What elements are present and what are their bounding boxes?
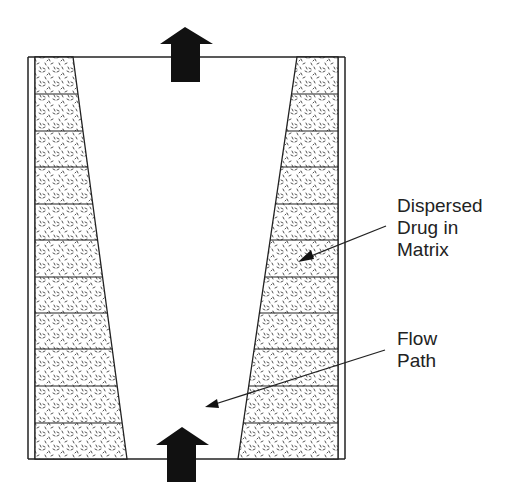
flow-path-label: Flow Path: [397, 328, 437, 372]
matrix-label-line2: Drug in: [397, 217, 483, 239]
flow-label-line1: Flow: [397, 328, 437, 350]
left-drug-matrix: [35, 57, 127, 459]
matrix-label-line3: Matrix: [397, 239, 483, 261]
matrix-label-line1: Dispersed: [397, 195, 483, 217]
right-drug-matrix: [238, 57, 338, 459]
flow-label-line2: Path: [397, 350, 437, 372]
inflow-arrow-icon: [156, 427, 209, 482]
outflow-arrow-icon: [160, 27, 213, 82]
matrix-label: Dispersed Drug in Matrix: [397, 195, 483, 261]
